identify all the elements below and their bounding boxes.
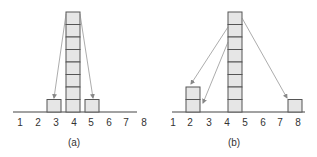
tick-label-b-4: 4 [224, 117, 230, 128]
tick-label-a-7: 7 [123, 117, 129, 128]
arrow-b-to-8 [242, 18, 287, 98]
stack-a-5 [85, 100, 99, 113]
tick-label-b-6: 6 [260, 117, 266, 128]
stack-a-4 [66, 12, 80, 112]
tick-label-a-2: 2 [35, 117, 41, 128]
stack-b-2 [186, 87, 200, 112]
stacking-diagram: 1 2 3 4 5 6 7 8 (a) [0, 0, 317, 157]
tick-label-b-3: 3 [206, 117, 212, 128]
panel-b: 1 2 3 4 5 6 7 8 (b) [170, 12, 305, 148]
tick-label-a-8: 8 [141, 117, 147, 128]
caption-b: (b) [228, 137, 240, 148]
arrow-a-to-3 [54, 14, 66, 98]
tick-label-a-6: 6 [106, 117, 112, 128]
stack-a-3 [47, 100, 61, 113]
tick-label-a-3: 3 [53, 117, 59, 128]
tick-label-a-5: 5 [88, 117, 94, 128]
tick-label-a-1: 1 [17, 117, 23, 128]
stack-b-4-5 [228, 12, 242, 112]
tick-label-b-2: 2 [187, 117, 193, 128]
stack-b-8 [288, 100, 302, 113]
tick-label-b-1: 1 [170, 117, 176, 128]
arrow-b-to-2-bottom [203, 42, 228, 103]
tick-label-a-4: 4 [71, 117, 77, 128]
caption-a: (a) [68, 137, 80, 148]
tick-label-b-8: 8 [295, 117, 301, 128]
tick-label-b-5: 5 [242, 117, 248, 128]
panel-a: 1 2 3 4 5 6 7 8 (a) [13, 12, 147, 148]
arrow-a-to-5 [80, 14, 93, 98]
tick-label-b-7: 7 [277, 117, 283, 128]
